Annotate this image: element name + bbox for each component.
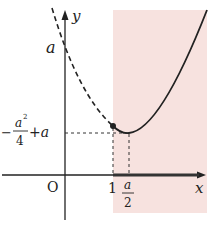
vertex-x-denominator: 2 [124, 196, 132, 210]
y-axis-label: y [71, 7, 81, 25]
min-exponent: 2 [23, 113, 27, 121]
y-intercept-label: a [46, 38, 56, 57]
vertex-x-numerator: a [124, 178, 131, 192]
origin-label: O [47, 179, 58, 195]
diagram-canvas: y x O a − a 2 4 +a 1 a 2 [0, 0, 217, 233]
min-prefix: − [1, 125, 12, 140]
point-x1 [110, 123, 116, 129]
parabola-dashed [52, 8, 113, 126]
y-axis-arrow-icon [62, 10, 69, 20]
min-denominator: 4 [16, 134, 24, 148]
graph-svg: y x O a − a 2 4 +a 1 a 2 [0, 0, 217, 233]
min-suffix: +a [29, 124, 49, 140]
x-axis-label: x [195, 179, 204, 197]
x-tick-one: 1 [108, 180, 117, 196]
min-numerator: a [15, 116, 22, 130]
